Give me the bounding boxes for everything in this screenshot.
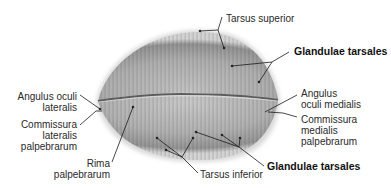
label-line: oculi medialis xyxy=(301,99,361,110)
label-line: palpebrarum xyxy=(301,136,357,147)
label-angulus-oculi-lateralis: Angulus oculi lateralis xyxy=(5,91,77,113)
label-commissura-lateralis: Commissura lateralis palpebrarum xyxy=(5,119,77,152)
label-angulus-oculi-medialis: Angulus oculi medialis xyxy=(301,88,361,110)
label-line: Angulus oculi xyxy=(5,91,77,102)
label-glandulae-tarsales-upper: Glandulae tarsales xyxy=(294,46,387,57)
label-tarsus-superior: Tarsus superior xyxy=(226,13,294,24)
label-line: palpebrarum xyxy=(5,141,77,152)
label-line: Commissura xyxy=(5,119,77,130)
label-line: Angulus xyxy=(301,88,361,99)
label-line: Commissura xyxy=(301,114,357,125)
label-line: lateralis xyxy=(5,102,77,113)
label-tarsus-inferior: Tarsus inferior xyxy=(200,169,263,180)
label-commissura-medialis: Commissura medialis palpebrarum xyxy=(301,114,357,147)
label-line: palpebrarum xyxy=(52,169,110,180)
label-glandulae-tarsales-lower: Glandulae tarsales xyxy=(267,161,360,172)
eyelid-diagram: Tarsus superior Glandulae tarsales Angul… xyxy=(0,0,391,188)
label-line: lateralis xyxy=(5,130,77,141)
label-line: Rima xyxy=(52,158,110,169)
label-rima-palpebrarum: Rima palpebrarum xyxy=(52,158,110,180)
label-line: medialis xyxy=(301,125,357,136)
